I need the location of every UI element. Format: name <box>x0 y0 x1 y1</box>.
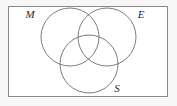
universal-set-rectangle <box>9 7 168 97</box>
venn-diagram-figure: M E S <box>0 0 177 106</box>
set-label-s: S <box>114 82 120 94</box>
set-label-m: M <box>24 8 35 20</box>
set-label-e: E <box>137 8 145 20</box>
venn-diagram-canvas: M E S <box>0 0 177 106</box>
